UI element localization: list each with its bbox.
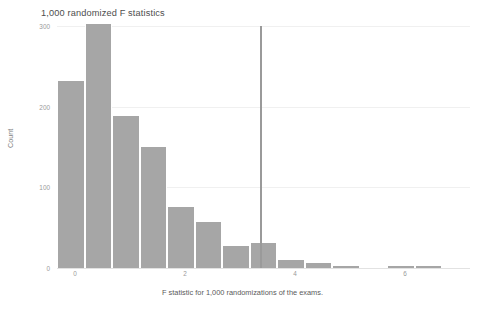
x-axis-line [57, 268, 470, 269]
histogram-bar [277, 260, 305, 268]
plot-area [57, 26, 470, 268]
y-tick-label: 300 [39, 23, 50, 30]
chart-title: 1,000 randomized F statistics [41, 8, 165, 18]
x-tick-label: 0 [73, 270, 77, 277]
gridline [57, 107, 470, 108]
histogram-bar [222, 246, 250, 268]
histogram-bar [305, 263, 333, 268]
gridline [57, 26, 470, 27]
histogram-bar [387, 266, 415, 268]
histogram-bar [57, 81, 85, 268]
histogram-bar [112, 116, 140, 268]
chart-figure: 1,000 randomized F statistics 0 100 200 … [0, 0, 485, 311]
histogram-bar [332, 266, 360, 268]
x-axis-ticks: 0 2 4 6 [57, 270, 470, 284]
histogram-bar [140, 147, 168, 268]
y-tick-label: 0 [46, 265, 50, 272]
x-axis-label: F statistic for 1,000 randomizations of … [0, 288, 485, 297]
x-tick-label: 2 [183, 270, 187, 277]
histogram-bar [167, 207, 195, 268]
x-tick-label: 4 [293, 270, 297, 277]
histogram-bar [250, 243, 278, 268]
y-tick-label: 100 [39, 184, 50, 191]
observed-statistic-line [260, 26, 262, 268]
histogram-bar [85, 24, 113, 269]
histogram-bar [195, 222, 223, 268]
x-tick-label: 6 [403, 270, 407, 277]
histogram-bar [415, 266, 443, 268]
y-axis-label: Count [6, 129, 15, 148]
y-tick-label: 200 [39, 103, 50, 110]
